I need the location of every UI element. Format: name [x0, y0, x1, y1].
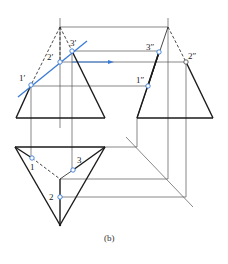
point-2-prime — [58, 60, 62, 64]
hidden-edge — [31, 27, 60, 85]
projection-lines — [31, 18, 193, 207]
miter-line — [126, 137, 193, 207]
label-2-prime: 2′ — [47, 52, 54, 62]
figure-caption: (b) — [104, 233, 115, 243]
arrow-icon — [108, 60, 114, 64]
label-2-double-prime: 2″ — [188, 51, 197, 61]
cutting-plane-line — [18, 41, 87, 97]
label-1-double-prime: 1″ — [136, 75, 145, 85]
point-3-double-prime — [157, 50, 161, 54]
section-edge-side — [148, 52, 159, 86]
label-3: 3 — [77, 155, 82, 165]
front-view — [16, 27, 105, 118]
hidden-edge-side — [168, 27, 186, 62]
hidden-edge-top — [32, 158, 60, 179]
point-1-double-prime — [146, 84, 150, 88]
label-1: 1 — [30, 162, 35, 172]
point-1 — [30, 156, 34, 160]
point-1-prime — [29, 83, 33, 87]
label-2: 2 — [49, 192, 54, 202]
front-view-points: 1′ 2′ 3′ — [19, 38, 77, 87]
point-3-prime — [70, 49, 74, 53]
top-view — [15, 147, 105, 226]
three-view-projection-drawing: 1′ 2′ 3′ 3″ 2″ 1″ 1 3 2 (b) — [0, 0, 228, 264]
point-2 — [58, 195, 62, 199]
side-view — [137, 27, 213, 118]
label-1-prime: 1′ — [19, 73, 26, 83]
point-3 — [71, 168, 75, 172]
label-3-double-prime: 3″ — [146, 42, 155, 52]
projection-arrow-2 — [60, 60, 186, 64]
label-3-prime: 3′ — [70, 38, 77, 48]
